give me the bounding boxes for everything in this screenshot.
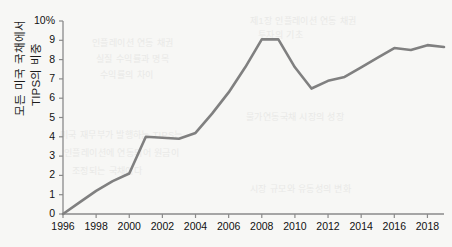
x-axis-tick-label: 2012: [311, 220, 345, 232]
y-axis-tick-label: 1: [27, 188, 55, 200]
y-axis-tick-label: 2: [27, 168, 55, 180]
x-axis-tick-label: 2018: [410, 220, 444, 232]
x-axis-tick-label: 2004: [179, 220, 213, 232]
plot-area: [0, 0, 452, 247]
x-axis-tick-label: 2016: [377, 220, 411, 232]
x-axis-tick-label: 2006: [212, 220, 246, 232]
x-axis-tick-label: 2008: [245, 220, 279, 232]
y-axis-tick-label: 5: [27, 111, 55, 123]
y-axis-tick-label: 0: [27, 207, 55, 219]
x-axis-tick-label: 1998: [79, 220, 113, 232]
x-axis-tick-label: 2010: [278, 220, 312, 232]
y-axis-tick-label: 4: [27, 130, 55, 142]
y-axis-tick-label: 9: [27, 33, 55, 45]
y-axis-tick-label: 7: [27, 72, 55, 84]
y-axis-tick-label: 6: [27, 91, 55, 103]
x-axis-tick-label: 2002: [145, 220, 179, 232]
x-axis-tick-label: 2000: [112, 220, 146, 232]
y-axis-tick-label: 10%: [23, 14, 55, 26]
y-axis-tick-label: 8: [27, 53, 55, 65]
chart-figure: 제1장 인플레이션 연동 채권 투자의 기초 인플레이션 연동 채권 실질 수익…: [0, 0, 452, 247]
y-axis-tick-label: 3: [27, 149, 55, 161]
data-series-line: [63, 39, 444, 214]
x-axis-tick-label: 1996: [46, 220, 80, 232]
x-axis-tick-label: 2014: [344, 220, 378, 232]
